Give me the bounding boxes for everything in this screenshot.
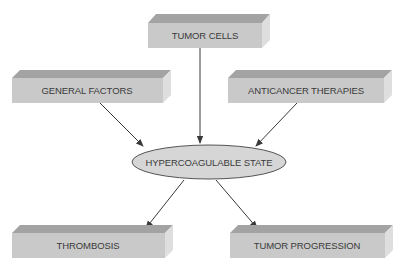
thrombosis-label: THROMBOSIS [57, 240, 120, 251]
node-hypercoagulable-state: HYPERCOAGULABLE STATE [132, 145, 286, 179]
node-general-factors: GENERAL FACTORS [12, 70, 171, 103]
box-top-face [228, 70, 392, 78]
hypercoagulable-state-label: HYPERCOAGULABLE STATE [146, 157, 273, 168]
node-tumor-cells: TUMOR CELLS [148, 14, 270, 48]
anticancer-therapies-label: ANTICANCER THERAPIES [248, 85, 364, 96]
box-top-face [12, 225, 173, 233]
flow-diagram: TUMOR CELLS GENERAL FACTORS ANTICANCER T… [0, 0, 404, 270]
tumor-cells-label: TUMOR CELLS [172, 30, 238, 41]
box-top-face [12, 70, 171, 78]
box-top-face [230, 225, 393, 233]
general-factors-label: GENERAL FACTORS [42, 85, 133, 96]
arrow-hypercoagulable-to-tumor-progression [216, 180, 257, 228]
node-thrombosis: THROMBOSIS [12, 225, 173, 258]
tumor-progression-label: TUMOR PROGRESSION [254, 240, 361, 251]
box-top-face [148, 14, 270, 23]
arrow-general-factors-to-hypercoagulable [100, 103, 143, 146]
arrow-hypercoagulable-to-thrombosis [146, 180, 184, 228]
arrow-anticancer-therapies-to-hypercoagulable [256, 103, 297, 146]
node-anticancer-therapies: ANTICANCER THERAPIES [228, 70, 392, 103]
node-tumor-progression: TUMOR PROGRESSION [230, 225, 393, 258]
